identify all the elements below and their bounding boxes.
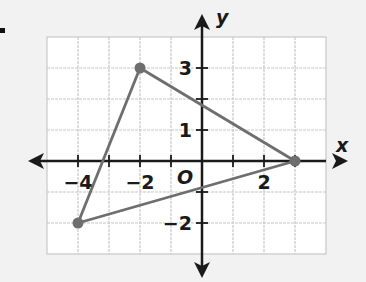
vertex-point xyxy=(290,156,301,167)
origin-label: O xyxy=(177,166,193,188)
x-axis-label: x xyxy=(335,134,349,156)
x-tick-label: 2 xyxy=(257,171,270,193)
coordinate-plane: x y O −4−2231−2 xyxy=(0,0,366,282)
y-axis-label: y xyxy=(216,6,230,28)
x-tick-label: −2 xyxy=(125,171,154,193)
x-tick-label: −4 xyxy=(63,171,92,193)
vertex-point xyxy=(73,218,84,229)
y-tick-label: 3 xyxy=(179,57,192,79)
y-tick-label: −2 xyxy=(163,212,192,234)
y-tick-label: 1 xyxy=(179,119,192,141)
vertex-point xyxy=(135,63,146,74)
